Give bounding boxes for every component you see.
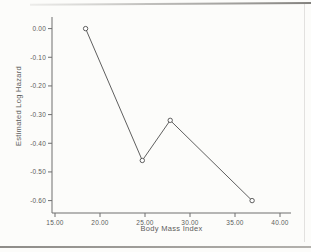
y-tick-label: 0.00 xyxy=(33,25,47,32)
y-tick-label: -0.30 xyxy=(30,111,46,118)
data-point-marker xyxy=(168,118,172,122)
y-tick-label: -0.10 xyxy=(30,54,46,61)
scanned-figure-page: 0.00-0.10-0.20-0.30-0.40-0.50-0.6015.002… xyxy=(0,0,311,252)
y-tick-label: -0.40 xyxy=(30,140,46,147)
x-axis-title: Body Mass Index xyxy=(52,224,291,233)
data-point-marker xyxy=(83,26,87,30)
bmi-hazard-line-chart: 0.00-0.10-0.20-0.30-0.40-0.50-0.6015.002… xyxy=(0,0,311,252)
series-line xyxy=(86,29,253,201)
data-point-marker xyxy=(250,198,254,202)
y-axis-title: Estimated Log Hazard xyxy=(14,6,26,206)
y-tick-label: -0.50 xyxy=(30,168,46,175)
y-tick-label: -0.60 xyxy=(30,197,46,204)
y-tick-label: -0.20 xyxy=(30,82,46,89)
data-point-marker xyxy=(140,158,144,162)
